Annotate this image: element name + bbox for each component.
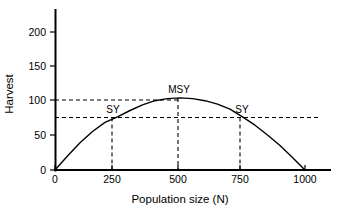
- x-axis-tick-labels: 0 250 500 750 1000: [52, 173, 317, 185]
- reference-lines: [55, 98, 321, 170]
- y-tick-label-0: 0: [40, 164, 46, 176]
- x-tick-label-250: 250: [103, 173, 121, 185]
- x-tick-label-500: 500: [169, 173, 187, 185]
- yield-curve-group: [55, 98, 305, 170]
- sustainable-yield-curve: [55, 98, 305, 170]
- y-tick-label-150: 150: [28, 60, 46, 72]
- y-axis-tick-labels: 200 150 100 50 0: [28, 26, 46, 176]
- annotation-sy-left: SY: [106, 104, 120, 115]
- annotation-msy: MSY: [168, 84, 190, 95]
- y-tick-label-50: 50: [34, 129, 46, 141]
- x-axis-title: Population size (N): [131, 193, 228, 205]
- y-axis-ticks: [50, 32, 55, 170]
- axes: [55, 10, 330, 171]
- harvest-yield-chart: 200 150 100 50 0 0 250 500 750 1000 SY M…: [0, 0, 338, 213]
- y-tick-label-100: 100: [28, 94, 46, 106]
- x-tick-label-1000: 1000: [293, 173, 317, 185]
- x-tick-label-750: 750: [231, 173, 249, 185]
- y-tick-label-200: 200: [28, 26, 46, 38]
- y-axis-title: Harvest: [3, 73, 15, 113]
- annotation-sy-right: SY: [235, 104, 249, 115]
- x-tick-label-0: 0: [52, 173, 58, 185]
- chart-canvas: 200 150 100 50 0 0 250 500 750 1000 SY M…: [0, 0, 338, 213]
